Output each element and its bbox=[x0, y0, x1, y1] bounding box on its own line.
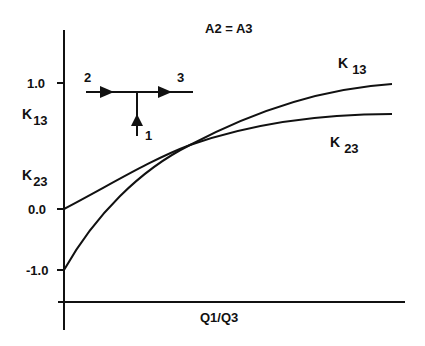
y-tick-neg1: -1.0 bbox=[26, 264, 48, 277]
curve-label-k13: K13 bbox=[338, 56, 363, 70]
x-axis-label: Q1/Q3 bbox=[200, 311, 238, 324]
tee-junction-icon bbox=[86, 86, 193, 136]
branch-label-2: 2 bbox=[84, 71, 91, 84]
chart-title: A2 = A3 bbox=[205, 22, 253, 35]
y-label-k23: K23 bbox=[22, 168, 47, 182]
chart-canvas bbox=[0, 0, 425, 346]
curve-label-k23: K23 bbox=[330, 135, 355, 149]
branch-label-3: 3 bbox=[177, 71, 184, 84]
y-tick-1: 1.0 bbox=[27, 77, 45, 90]
branch-label-1: 1 bbox=[145, 129, 152, 142]
curve-k13 bbox=[64, 84, 392, 270]
y-tick-0: 0.0 bbox=[28, 203, 46, 216]
curve-k23 bbox=[64, 114, 392, 209]
y-label-k13: K13 bbox=[22, 107, 47, 121]
